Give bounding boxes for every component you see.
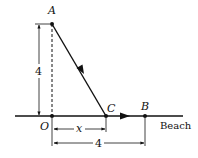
- height-dimension-label: 4: [35, 65, 42, 78]
- point-a: [50, 22, 54, 26]
- point-b: [143, 114, 147, 118]
- point-o: [50, 114, 54, 118]
- label-b: B: [140, 100, 149, 113]
- direction-arrow-cb: [120, 113, 130, 120]
- label-a: A: [47, 4, 56, 17]
- base-dimension-label: 4: [95, 137, 102, 150]
- beach-path-diagram: A O C B 4 x 4 Beach: [0, 0, 198, 158]
- beach-label: Beach: [160, 120, 192, 131]
- x-dimension-label: x: [76, 122, 83, 135]
- label-c: C: [107, 102, 116, 115]
- label-o: O: [40, 120, 49, 133]
